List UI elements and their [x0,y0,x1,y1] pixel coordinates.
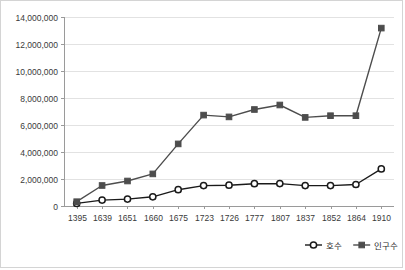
y-axis-tick-label: 6,000,000 [20,121,58,131]
axes [64,17,394,207]
y-axis-tick-label: 10,000,000 [15,67,58,77]
x-axis-tick-label: 1807 [271,213,290,223]
data-point-marker [378,166,384,172]
x-axis-tick-label: 1910 [372,213,391,223]
y-axis-tick-label: 0 [53,202,58,212]
y-axis-tick-label: 14,000,000 [15,13,58,23]
data-point-marker [302,183,308,189]
data-point-marker [226,182,232,188]
x-axis-tick-label: 1777 [245,213,264,223]
legend-label: 인구수 [374,241,398,251]
legend-label: 호수 [326,241,342,251]
y-axis-tick-label: 2,000,000 [20,175,58,185]
data-point-marker [328,113,334,119]
x-axis-tick-label: 1852 [322,213,341,223]
data-point-marker [74,199,80,205]
data-point-marker [175,187,181,193]
series-1 [74,166,385,207]
data-point-marker [327,183,333,189]
data-point-marker [277,102,283,108]
legend-marker [359,242,365,248]
y-axis-tick-label: 4,000,000 [20,148,58,158]
x-axis-labels: 1395163916511660167517231726177718071837… [68,206,391,223]
data-point-marker [201,112,207,118]
data-point-marker [99,197,105,203]
chart-legend: 호수인구수 [305,241,398,251]
x-axis-tick-label: 1395 [68,213,87,223]
data-point-marker [353,113,359,119]
x-axis-tick-label: 1660 [144,213,163,223]
chart-frame: 02,000,0004,000,0006,000,0008,000,00010,… [0,0,403,268]
x-axis-tick-label: 1864 [347,213,366,223]
data-point-marker [125,178,131,184]
data-point-marker [226,114,232,120]
data-point-marker [124,196,130,202]
legend-item-1[interactable]: 호수 [305,241,342,251]
data-point-marker [150,171,156,177]
y-axis-tick-label: 8,000,000 [20,94,58,104]
series-2 [74,25,384,204]
data-point-marker [150,194,156,200]
x-axis-tick-label: 1651 [118,213,137,223]
data-point-marker [251,181,257,187]
x-axis-tick-label: 1837 [296,213,315,223]
data-point-marker [99,183,105,189]
x-axis-tick-label: 1723 [195,213,214,223]
data-point-marker [201,183,207,189]
y-axis-tick-label: 12,000,000 [15,40,58,50]
legend-item-2[interactable]: 인구수 [353,241,398,251]
data-point-marker [353,181,359,187]
data-point-marker [302,115,308,121]
x-axis-tick-label: 1726 [220,213,239,223]
line-chart: 02,000,0004,000,0006,000,0008,000,00010,… [1,1,404,269]
data-point-marker [175,141,181,147]
x-axis-tick-label: 1639 [93,213,112,223]
legend-marker [310,242,316,248]
data-point-marker [277,181,283,187]
data-point-marker [252,107,258,113]
data-point-marker [379,25,385,31]
x-axis-tick-label: 1675 [169,213,188,223]
